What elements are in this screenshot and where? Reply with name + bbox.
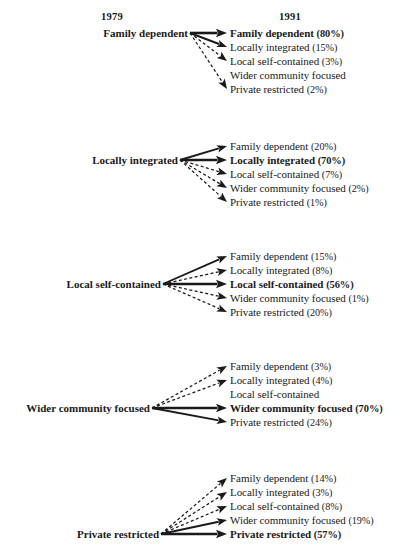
destination-percentage: (80%) (317, 28, 344, 39)
destination-name: Local self-contained (230, 168, 319, 180)
destination-label-private-restricted: Private restricted (1%) (230, 196, 327, 208)
destination-label-local-self-contained: Local self-contained (230, 388, 319, 400)
destination-percentage: (20%) (311, 141, 336, 152)
destination-label-family-dependent: Family dependent (14%) (230, 472, 336, 484)
source-label-wider-community-focused: Wider community focused (26, 402, 150, 414)
destination-name: Wider community focused (230, 402, 353, 414)
destination-label-family-dependent: Family dependent (20%) (230, 140, 336, 152)
source-label-local-self-contained: Local self-contained (67, 278, 161, 290)
destination-percentage: (56%) (326, 279, 353, 290)
destination-label-private-restricted: Private restricted (2%) (230, 83, 327, 95)
destination-name: Family dependent (230, 140, 308, 152)
destination-name: Locally integrated (230, 41, 309, 53)
destination-percentage: (3%) (312, 487, 332, 498)
column-header-1979: 1979 (101, 11, 123, 22)
destination-label-local-self-contained: Local self-contained (56%) (230, 278, 354, 290)
destination-name: Locally integrated (230, 374, 309, 386)
destination-label-local-self-contained: Local self-contained (3%) (230, 55, 342, 67)
destination-percentage: (8%) (322, 501, 342, 512)
destination-percentage: (15%) (312, 42, 337, 53)
destination-percentage: (70%) (318, 155, 345, 166)
destination-name: Family dependent (230, 27, 314, 39)
destination-label-locally-integrated: Locally integrated (3%) (230, 486, 332, 498)
source-label-locally-integrated: Locally integrated (92, 154, 178, 166)
destination-name: Local self-contained (230, 388, 319, 400)
destination-label-locally-integrated: Locally integrated (4%) (230, 374, 332, 386)
destination-label-family-dependent: Family dependent (80%) (230, 27, 344, 39)
source-label-family-dependent: Family dependent (103, 27, 188, 39)
destination-percentage: (57%) (314, 529, 341, 540)
destination-name: Local self-contained (230, 278, 323, 290)
destination-name: Private restricted (230, 306, 304, 318)
destination-name: Wider community focused (230, 182, 346, 194)
destination-label-family-dependent: Family dependent (3%) (230, 360, 331, 372)
source-label-private-restricted: Private restricted (77, 528, 159, 540)
destination-percentage: (3%) (311, 361, 331, 372)
destination-percentage: (4%) (312, 375, 332, 386)
destination-label-locally-integrated: Locally integrated (8%) (230, 264, 332, 276)
destination-name: Private restricted (230, 416, 304, 428)
destination-percentage: (2%) (307, 84, 327, 95)
destination-percentage: (1%) (307, 197, 327, 208)
destination-label-wider-community-focused: Wider community focused (19%) (230, 514, 374, 526)
destination-name: Locally integrated (230, 486, 309, 498)
destination-label-wider-community-focused: Wider community focused (70%) (230, 402, 383, 414)
destination-label-locally-integrated: Locally integrated (70%) (230, 154, 345, 166)
destination-name: Private restricted (230, 196, 304, 208)
destination-label-wider-community-focused: Wider community focused (230, 69, 346, 81)
destination-percentage: (3%) (322, 56, 342, 67)
destination-percentage: (19%) (348, 515, 373, 526)
destination-percentage: (24%) (307, 417, 332, 428)
destination-percentage: (70%) (355, 403, 382, 414)
destination-name: Wider community focused (230, 514, 346, 526)
destination-label-local-self-contained: Local self-contained (8%) (230, 500, 342, 512)
destination-name: Private restricted (230, 528, 311, 540)
column-header-1991: 1991 (279, 11, 301, 22)
destination-label-wider-community-focused: Wider community focused (2%) (230, 182, 369, 194)
destination-name: Locally integrated (230, 154, 315, 166)
destination-label-family-dependent: Family dependent (15%) (230, 250, 336, 262)
destination-name: Family dependent (230, 472, 308, 484)
destination-label-private-restricted: Private restricted (20%) (230, 306, 332, 318)
destination-percentage: (20%) (307, 307, 332, 318)
destination-label-private-restricted: Private restricted (24%) (230, 416, 332, 428)
transition-diagram: 1979 1991 Family dependentFamily depende… (0, 0, 407, 546)
destination-label-locally-integrated: Locally integrated (15%) (230, 41, 337, 53)
destination-name: Family dependent (230, 250, 308, 262)
destination-percentage: (15%) (311, 251, 336, 262)
destination-label-wider-community-focused: Wider community focused (1%) (230, 292, 369, 304)
destination-percentage: (2%) (348, 183, 368, 194)
destination-name: Private restricted (230, 83, 304, 95)
destination-percentage: (8%) (312, 265, 332, 276)
destination-name: Wider community focused (230, 292, 346, 304)
destination-percentage: (1%) (348, 293, 368, 304)
destination-percentage: (7%) (322, 169, 342, 180)
destination-name: Local self-contained (230, 500, 319, 512)
destination-name: Wider community focused (230, 69, 346, 81)
destination-percentage: (14%) (311, 473, 336, 484)
destination-name: Locally integrated (230, 264, 309, 276)
label-layer: 1979 1991 Family dependentFamily depende… (0, 0, 407, 546)
destination-name: Family dependent (230, 360, 308, 372)
destination-label-private-restricted: Private restricted (57%) (230, 528, 341, 540)
destination-name: Local self-contained (230, 55, 319, 67)
destination-label-local-self-contained: Local self-contained (7%) (230, 168, 342, 180)
